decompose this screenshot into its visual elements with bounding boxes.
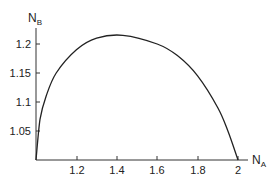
x-axis-label: NA <box>252 153 267 169</box>
x-tick-label: 1.4 <box>109 164 124 176</box>
y-tick-label: 1.2 <box>16 38 31 50</box>
y-tick-label: 1.05 <box>10 125 31 137</box>
data-curve <box>36 35 238 160</box>
y-axis-label: NB <box>28 11 42 27</box>
x-tick-label: 2 <box>235 164 241 176</box>
x-ticks: 1.2 1.4 1.6 1.8 2 <box>69 156 241 176</box>
x-tick-label: 1.6 <box>149 164 164 176</box>
x-tick-label: 1.8 <box>190 164 205 176</box>
chart: 1.05 1.1 1.15 1.2 1.2 1.4 1.6 1.8 2 NB N… <box>0 0 277 182</box>
x-tick-label: 1.2 <box>69 164 84 176</box>
y-tick-label: 1.1 <box>16 96 31 108</box>
y-ticks: 1.05 1.1 1.15 1.2 <box>10 38 40 137</box>
y-tick-label: 1.15 <box>10 67 31 79</box>
